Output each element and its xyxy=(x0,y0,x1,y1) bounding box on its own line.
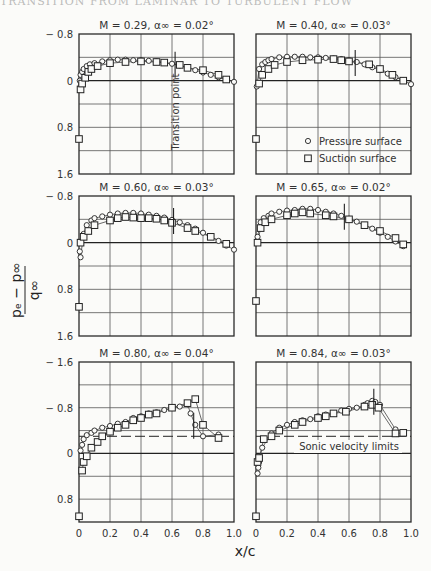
pressure-surface-marker xyxy=(115,57,120,62)
pressure-surface-marker xyxy=(78,448,83,453)
suction-surface-marker xyxy=(88,444,95,451)
suction-surface-marker xyxy=(130,214,137,221)
y-tick-label: 1.6 xyxy=(57,331,73,342)
pressure-surface-marker xyxy=(339,213,344,218)
suction-surface-marker xyxy=(253,513,260,520)
suction-surface-marker xyxy=(76,136,83,143)
suction-surface-marker xyxy=(256,455,263,462)
legend-suction-label: Suction surface xyxy=(319,153,396,164)
suction-surface-marker xyxy=(291,422,298,429)
suction-surface-marker xyxy=(153,59,160,66)
suction-surface-marker xyxy=(256,80,263,87)
panel-title: M = 0.80, α∞ = 0.04° xyxy=(99,347,213,359)
suction-surface-marker xyxy=(192,228,199,235)
pressure-surface-marker xyxy=(131,58,136,63)
suction-surface-marker xyxy=(161,217,168,224)
pressure-surface-marker xyxy=(255,471,260,476)
pressure-surface-marker xyxy=(308,417,313,422)
suction-surface-marker xyxy=(138,58,145,65)
chart-panel-1: M = 0.29, α∞ = 0.02°− 0.800.81.6 xyxy=(46,19,237,180)
suction-surface-marker xyxy=(284,59,291,66)
suction-surface-marker xyxy=(79,467,86,474)
suction-surface-marker xyxy=(346,58,353,65)
pressure-surface-marker xyxy=(100,214,105,219)
suction-surface-marker xyxy=(291,210,298,217)
legend-circle-icon xyxy=(305,138,310,143)
pressure-surface-marker xyxy=(408,82,413,87)
suction-surface-marker xyxy=(130,417,137,424)
pressure-surface-marker xyxy=(257,66,262,71)
y-tick-label: − 1.6 xyxy=(46,357,73,368)
suction-surface-marker xyxy=(138,215,145,222)
chart-panel-5: M = 0.80, α∞ = 0.04°− 1.6− 0.800.800.20.… xyxy=(46,347,242,539)
suction-surface-marker xyxy=(330,410,337,417)
suction-surface-marker xyxy=(271,62,278,69)
suction-surface-marker xyxy=(76,304,83,311)
suction-surface-marker xyxy=(330,56,337,63)
suction-surface-marker xyxy=(184,400,191,407)
pressure-surface-marker xyxy=(188,411,193,416)
suction-surface-marker xyxy=(389,72,396,79)
suction-surface-marker xyxy=(259,72,266,79)
suction-surface-marker xyxy=(253,298,260,305)
pressure-surface-marker xyxy=(354,219,359,224)
pressure-surface-marker xyxy=(77,249,82,254)
y-tick-label: 1.6 xyxy=(57,169,73,180)
svg-text:pₑ − p∞: pₑ − p∞ xyxy=(8,262,24,318)
x-tick-label: 0.4 xyxy=(133,528,149,539)
suction-surface-marker xyxy=(76,513,83,520)
y-tick-label: 0.8 xyxy=(57,494,73,505)
suction-surface-marker xyxy=(215,435,222,442)
legend-square-icon xyxy=(305,155,312,162)
suction-surface-marker xyxy=(361,222,368,229)
suction-surface-marker xyxy=(262,219,269,226)
chart-panel-3: M = 0.60, α∞ = 0.03°− 0.800.81.6 xyxy=(46,181,237,342)
suction-surface-marker xyxy=(184,65,191,72)
suction-surface-marker xyxy=(254,239,261,246)
pressure-surface-marker xyxy=(277,209,282,214)
suction-surface-marker xyxy=(107,60,114,67)
suction-surface-marker xyxy=(315,415,322,422)
pressure-surface-marker xyxy=(208,72,213,77)
suction-surface-marker xyxy=(276,427,283,434)
suction-surface-marker xyxy=(299,419,306,426)
pressure-surface-marker xyxy=(100,425,105,430)
suction-surface-marker xyxy=(315,56,322,63)
suction-surface-marker xyxy=(375,404,382,411)
suction-surface-marker xyxy=(265,66,272,73)
suction-surface-marker xyxy=(192,396,199,403)
pressure-surface-marker xyxy=(216,238,221,243)
chart-panel-4: M = 0.65, α∞ = 0.02° xyxy=(253,181,411,336)
suction-surface-marker xyxy=(400,77,407,84)
y-tick-label: 0.8 xyxy=(57,284,73,295)
y-axis-label: pₑ − p∞q∞ xyxy=(8,262,42,318)
x-tick-label: 1.0 xyxy=(403,528,419,539)
suction-surface-marker xyxy=(215,72,222,79)
pressure-surface-marker xyxy=(84,223,89,228)
x-tick-label: 0.4 xyxy=(310,528,326,539)
x-axis-label: x/c xyxy=(235,543,256,559)
suction-surface-marker xyxy=(322,212,329,219)
suction-surface-marker xyxy=(88,66,95,73)
suction-surface-marker xyxy=(122,422,129,429)
suction-surface-marker xyxy=(169,404,176,411)
pressure-surface-marker xyxy=(177,220,182,225)
suction-surface-marker xyxy=(91,222,98,229)
y-tick-label: 0 xyxy=(67,448,73,459)
legend-pressure-label: Pressure surface xyxy=(319,136,402,147)
panel-title: M = 0.65, α∞ = 0.02° xyxy=(276,181,390,193)
suction-surface-marker xyxy=(369,402,376,409)
pressure-surface-marker xyxy=(146,58,151,63)
pressure-surface-marker xyxy=(78,255,83,260)
transition-point-label: Transition point xyxy=(170,73,181,151)
pressure-surface-marker xyxy=(177,404,182,409)
plot-frame xyxy=(79,362,234,522)
suction-surface-marker xyxy=(114,424,121,431)
suction-surface-marker xyxy=(346,216,353,223)
suction-surface-marker xyxy=(122,59,129,66)
suction-surface-marker xyxy=(392,430,399,437)
suction-surface-marker xyxy=(299,209,306,216)
pressure-surface-marker xyxy=(200,230,205,235)
pressure-surface-marker xyxy=(255,234,260,239)
y-tick-label: 0 xyxy=(67,238,73,249)
